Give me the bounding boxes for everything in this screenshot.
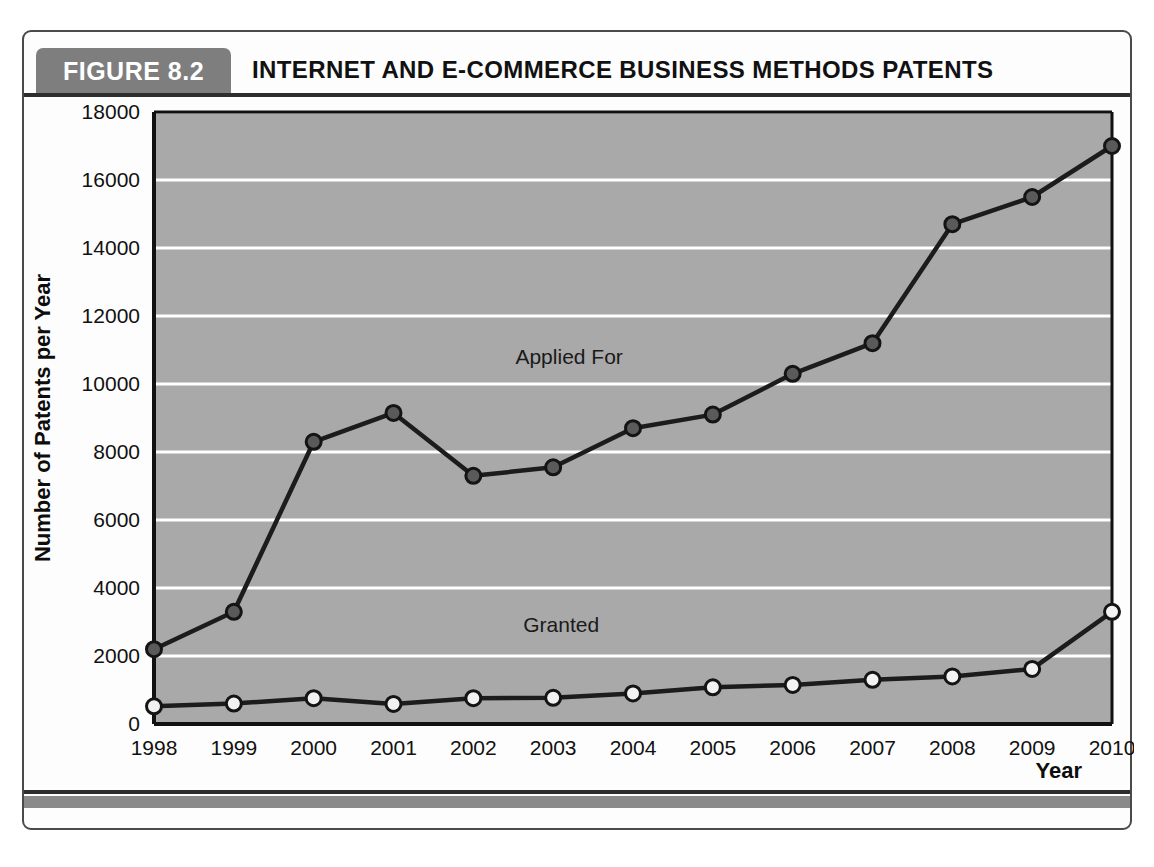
figure-number-badge: FIGURE 8.2 [36, 48, 231, 94]
x-tick-label: 1998 [131, 736, 178, 759]
data-point-marker [466, 691, 481, 706]
x-tick-label: 2004 [610, 736, 657, 759]
figure-header: FIGURE 8.2 INTERNET AND E-COMMERCE BUSIN… [24, 32, 1130, 94]
data-point-marker [785, 677, 800, 692]
x-axis-tick-labels: 1998199920002001200220032004200520062007… [131, 736, 1134, 759]
data-point-marker [226, 604, 241, 619]
x-tick-label: 2008 [929, 736, 976, 759]
y-tick-label: 8000 [93, 440, 140, 463]
x-tick-label: 2006 [769, 736, 816, 759]
data-point-marker [306, 691, 321, 706]
y-tick-label: 2000 [93, 644, 140, 667]
data-point-marker [865, 672, 880, 687]
x-tick-label: 2001 [370, 736, 417, 759]
data-point-marker [1105, 139, 1120, 154]
footer-accent-bar [24, 796, 1130, 808]
data-point-marker [1025, 661, 1040, 676]
data-point-marker [626, 686, 641, 701]
y-tick-label: 6000 [93, 508, 140, 531]
series-annotation: Granted [523, 613, 599, 636]
data-point-marker [546, 690, 561, 705]
data-point-marker [226, 696, 241, 711]
data-point-marker [546, 460, 561, 475]
y-tick-label: 0 [128, 712, 140, 735]
data-point-marker [705, 407, 720, 422]
x-tick-label: 2009 [1009, 736, 1056, 759]
chart-container: 0200040006000800010000120001400016000180… [24, 94, 1134, 794]
x-axis-title: Year [1036, 758, 1083, 783]
figure-frame: FIGURE 8.2 INTERNET AND E-COMMERCE BUSIN… [22, 30, 1132, 830]
y-axis-title: Number of Patents per Year [30, 273, 55, 562]
y-tick-label: 12000 [82, 304, 140, 327]
x-tick-label: 2007 [849, 736, 896, 759]
data-point-marker [466, 468, 481, 483]
x-tick-label: 2000 [290, 736, 337, 759]
footer-divider [24, 790, 1130, 794]
data-point-marker [626, 421, 641, 436]
data-point-marker [147, 642, 162, 657]
line-chart: 0200040006000800010000120001400016000180… [24, 94, 1134, 794]
figure-number-label: FIGURE 8.2 [63, 57, 204, 86]
data-point-marker [865, 336, 880, 351]
data-point-marker [945, 217, 960, 232]
plot-background [154, 112, 1112, 724]
data-point-marker [147, 699, 162, 714]
x-tick-label: 2010 [1089, 736, 1134, 759]
data-point-marker [386, 405, 401, 420]
data-point-marker [1105, 604, 1120, 619]
x-tick-label: 2002 [450, 736, 497, 759]
y-tick-label: 16000 [82, 168, 140, 191]
y-tick-label: 18000 [82, 100, 140, 123]
y-axis-tick-labels: 0200040006000800010000120001400016000180… [82, 100, 140, 735]
series-annotation: Applied For [515, 345, 622, 368]
y-tick-label: 4000 [93, 576, 140, 599]
data-point-marker [306, 434, 321, 449]
data-point-marker [945, 669, 960, 684]
data-point-marker [386, 696, 401, 711]
y-tick-label: 14000 [82, 236, 140, 259]
y-tick-label: 10000 [82, 372, 140, 395]
x-tick-label: 2005 [689, 736, 736, 759]
figure-title: INTERNET AND E-COMMERCE BUSINESS METHODS… [252, 56, 993, 84]
data-point-marker [705, 680, 720, 695]
data-point-marker [1025, 190, 1040, 205]
data-point-marker [785, 366, 800, 381]
x-tick-label: 1999 [210, 736, 257, 759]
x-tick-label: 2003 [530, 736, 577, 759]
